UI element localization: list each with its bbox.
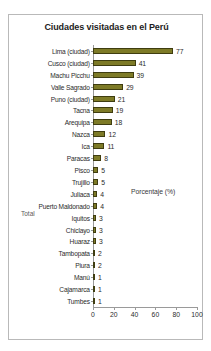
x-axis-tick-label: 100 bbox=[191, 311, 202, 318]
category-label: Chiclayo bbox=[66, 226, 90, 233]
bar-row: Iquitos3 bbox=[93, 212, 197, 224]
bar-value-label: 21 bbox=[118, 95, 125, 102]
bar-value-label: 29 bbox=[126, 83, 133, 90]
bar bbox=[93, 167, 98, 173]
bar-row: Pisco5 bbox=[93, 164, 197, 176]
bar bbox=[93, 155, 101, 161]
bar bbox=[93, 48, 173, 54]
bar-row: Ica11 bbox=[93, 140, 197, 152]
bar-value-label: 77 bbox=[176, 47, 183, 54]
bar-value-label: 19 bbox=[116, 107, 123, 114]
bar-row: Nazca12 bbox=[93, 128, 197, 140]
category-label: Huaraz bbox=[70, 238, 90, 245]
bar-row: Puerto Maldonado4 bbox=[93, 200, 197, 212]
bar bbox=[93, 96, 115, 102]
bar-value-label: 4 bbox=[100, 202, 104, 209]
x-axis-tick-label: 80 bbox=[172, 311, 180, 318]
bar bbox=[93, 107, 113, 113]
category-label: Valle Sagrado bbox=[51, 83, 90, 90]
category-label: Arequipa bbox=[65, 119, 90, 126]
bar bbox=[93, 298, 95, 304]
bar-row: Tacna19 bbox=[93, 105, 197, 117]
category-label: Nazca bbox=[72, 131, 90, 138]
bar-value-label: 1 bbox=[98, 286, 102, 293]
x-axis-tick-label: 20 bbox=[110, 311, 118, 318]
bar bbox=[93, 179, 98, 185]
bar bbox=[93, 84, 123, 90]
bar bbox=[93, 215, 96, 221]
bar-value-label: 3 bbox=[99, 226, 103, 233]
category-label: Cusco (ciudad) bbox=[48, 59, 90, 66]
bar-row: Valle Sagrado29 bbox=[93, 81, 197, 93]
chart-frame: Ciudades visitadas en el Perú Lima (ciud… bbox=[8, 14, 203, 340]
bar bbox=[93, 250, 95, 256]
bar bbox=[93, 191, 97, 197]
bar bbox=[93, 238, 96, 244]
category-label: Iquitos bbox=[72, 214, 90, 221]
bar bbox=[93, 143, 104, 149]
bar-row: Chiclayo3 bbox=[93, 224, 197, 236]
bar-value-label: 3 bbox=[99, 238, 103, 245]
bar-row: Trujillo5 bbox=[93, 176, 197, 188]
bar bbox=[93, 274, 95, 280]
bar-row: Paracas8 bbox=[93, 152, 197, 164]
x-axis-tick-label: 0 bbox=[91, 311, 95, 318]
bar-row: Tumbes1 bbox=[93, 295, 197, 307]
bar-row: Lima (ciudad)77 bbox=[93, 45, 197, 57]
category-label: Paracas bbox=[67, 155, 90, 162]
category-label: Puerto Maldonado bbox=[38, 202, 90, 209]
x-axis-tick bbox=[197, 307, 198, 310]
category-label: Puno (ciudad) bbox=[51, 95, 90, 102]
bar-value-label: 11 bbox=[107, 143, 114, 150]
x-axis-title: Porcentaje (%) bbox=[131, 188, 175, 195]
bar bbox=[93, 131, 105, 137]
bar-value-label: 5 bbox=[101, 178, 105, 185]
x-axis-tick-label: 40 bbox=[131, 311, 139, 318]
bar-value-label: 12 bbox=[108, 131, 115, 138]
category-label: Piura bbox=[75, 262, 90, 269]
bar bbox=[93, 60, 136, 66]
category-label: Manú bbox=[74, 274, 90, 281]
bar-value-label: 2 bbox=[98, 250, 102, 257]
bar-value-label: 5 bbox=[101, 167, 105, 174]
category-label: Ica bbox=[82, 143, 90, 150]
x-axis-tick bbox=[155, 307, 156, 310]
x-axis-tick bbox=[135, 307, 136, 310]
bar-row: Tambopata2 bbox=[93, 247, 197, 259]
x-axis-tick bbox=[114, 307, 115, 310]
bar-value-label: 2 bbox=[98, 262, 102, 269]
bar-row: Arequipa18 bbox=[93, 116, 197, 128]
category-label: Tumbes bbox=[67, 298, 90, 305]
x-axis-tick bbox=[93, 307, 94, 310]
x-axis-tick-label: 60 bbox=[152, 311, 160, 318]
bar-row: Huaraz3 bbox=[93, 236, 197, 248]
bar-row: Puno (ciudad)21 bbox=[93, 93, 197, 105]
bar-value-label: 8 bbox=[104, 155, 108, 162]
category-label: Tacna bbox=[73, 107, 90, 114]
bar bbox=[93, 119, 112, 125]
bar-row: Piura2 bbox=[93, 259, 197, 271]
category-label: Juliaca bbox=[70, 190, 89, 197]
plot-area: Lima (ciudad)77Cusco (ciudad)41Machu Pic… bbox=[93, 45, 197, 307]
category-label: Pisco bbox=[75, 167, 90, 174]
bar bbox=[93, 72, 134, 78]
category-label: Cajamarca bbox=[59, 286, 90, 293]
bar-value-label: 39 bbox=[137, 71, 144, 78]
category-label: Lima (ciudad) bbox=[52, 47, 90, 54]
category-label: Tambopata bbox=[59, 250, 90, 257]
bar bbox=[93, 227, 96, 233]
bar-value-label: 41 bbox=[139, 59, 146, 66]
bar-row: Machu Picchu39 bbox=[93, 69, 197, 81]
bar-value-label: 1 bbox=[98, 298, 102, 305]
x-axis-tick bbox=[176, 307, 177, 310]
bar-value-label: 4 bbox=[100, 190, 104, 197]
bar-row: Manú1 bbox=[93, 271, 197, 283]
bar-row: Cajamarca1 bbox=[93, 283, 197, 295]
category-label: Machu Picchu bbox=[50, 71, 90, 78]
chart-title: Ciudades visitadas en el Perú bbox=[9, 22, 204, 32]
bar bbox=[93, 262, 95, 268]
bar-row: Cusco (ciudad)41 bbox=[93, 57, 197, 69]
bar bbox=[93, 203, 97, 209]
bar bbox=[93, 286, 95, 292]
category-label: Trujillo bbox=[72, 178, 90, 185]
